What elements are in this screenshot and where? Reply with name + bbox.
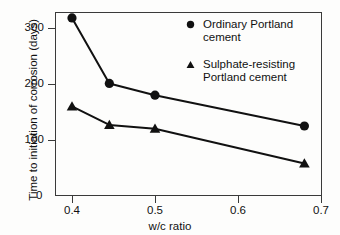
y-tick-label-300: 300 [25,22,45,34]
x-tick-label-0.5: 0.5 [135,205,175,217]
y-axis-label: Time to initiation of corrosion (days) [28,15,40,205]
legend-label-ordinary-portland-cement: Ordinary Portland cement [203,18,326,43]
x-axis-label: w/c ratio [0,221,340,233]
x-tick-mark-0.4 [72,196,73,203]
y-tick-label-200: 200 [25,78,45,90]
legend-label-sulphate-resisting-portland-cement: Sulphate-resisting Portland cement [203,58,326,83]
y-tick-label-100: 100 [25,134,45,146]
y-tick-mark-200 [48,84,55,85]
x-tick-label-0.7: 0.7 [301,205,340,217]
y-tick-mark-100 [48,140,55,141]
legend-item-sulphate-resisting-portland-cement: Sulphate-resisting Portland cement [186,58,326,83]
x-tick-mark-0.5 [155,196,156,203]
legend-item-ordinary-portland-cement: Ordinary Portland cement [186,18,326,43]
x-tick-label-0.6: 0.6 [218,205,258,217]
x-tick-mark-0.7 [321,196,322,203]
corrosion-chart-figure: Time to initiation of corrosion (days) 3… [0,0,340,235]
x-tick-mark-0.6 [238,196,239,203]
y-tick-mark-300 [48,28,55,29]
triangle-marker-icon [186,60,195,69]
circle-marker-icon [186,20,195,29]
legend: Ordinary Portland cement Sulphate-resist… [186,18,326,98]
x-tick-label-0.4: 0.4 [52,205,92,217]
y-tick-label-0: 0 [36,190,42,202]
